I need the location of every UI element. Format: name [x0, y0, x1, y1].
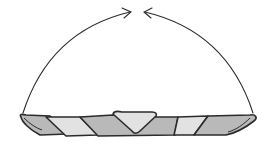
right-arc-arrow	[144, 8, 253, 113]
twisted-strip	[20, 111, 256, 136]
left-arc-arrow	[23, 8, 131, 113]
diagram-canvas: Twisted strip with ends joined into a ri…	[0, 0, 270, 167]
